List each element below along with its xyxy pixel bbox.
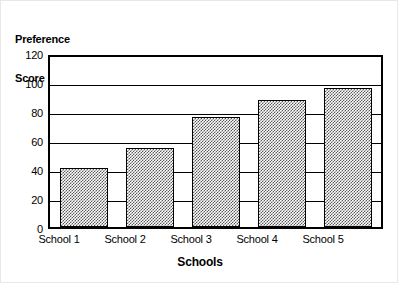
- plot-area: [48, 55, 383, 229]
- bar-school-3: [192, 117, 240, 228]
- bar-school-1: [60, 168, 108, 228]
- y-tick-label-60: 60: [3, 136, 43, 148]
- x-tick-label-school-5: School 5: [298, 233, 348, 245]
- bar-school-2: [126, 148, 174, 227]
- x-tick-label-school-4: School 4: [232, 233, 282, 245]
- bar-school-4: [258, 100, 306, 228]
- x-tick-label-school-1: School 1: [34, 233, 84, 245]
- y-tick-label-100: 100: [3, 78, 43, 90]
- plot-inner: [50, 57, 381, 227]
- x-tick-label-school-2: School 2: [100, 233, 150, 245]
- x-tick-label-school-3: School 3: [166, 233, 216, 245]
- y-tick-label-20: 20: [3, 194, 43, 206]
- bar-chart-figure: Preference Score 120 100 80 60 40 20 0 S…: [0, 0, 398, 283]
- y-tick-label-120: 120: [3, 49, 43, 61]
- bar-school-5: [324, 88, 372, 227]
- y-tick-label-80: 80: [3, 107, 43, 119]
- y-axis-title-line1: Preference: [15, 33, 70, 46]
- gridline-100: [50, 85, 381, 86]
- x-axis-title: Schools: [1, 255, 398, 269]
- y-tick-label-40: 40: [3, 165, 43, 177]
